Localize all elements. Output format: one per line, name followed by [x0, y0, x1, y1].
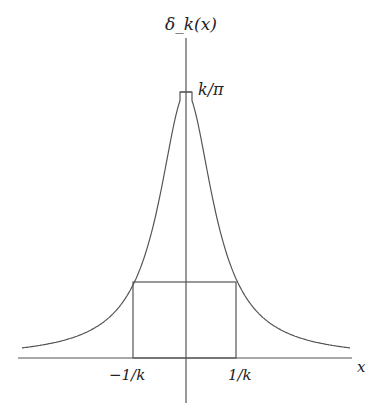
- peak-label: k/π: [198, 80, 224, 99]
- delta-function-diagram: δ_k(x) k/π −1/k 1/k x: [0, 0, 383, 419]
- y-axis-label: δ_k(x): [165, 14, 217, 34]
- x-axis-label: x: [357, 358, 366, 376]
- tick-right-label: 1/k: [228, 366, 252, 384]
- unit-area-rectangle: [133, 282, 236, 358]
- tick-left-label: −1/k: [109, 366, 145, 384]
